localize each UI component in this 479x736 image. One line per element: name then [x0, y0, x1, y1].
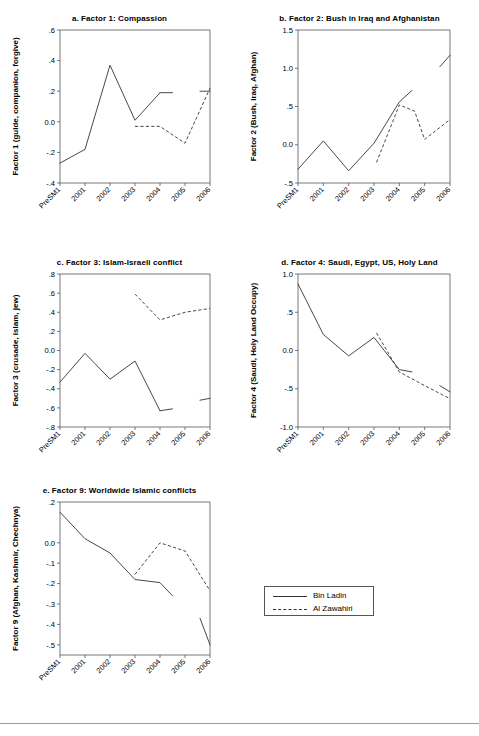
- panel-d-plot: -1.0-.50.0.51.0PreSM12001200220032004200…: [240, 268, 479, 488]
- panel-factor-2: b. Factor 2: Bush in Iraq and Afghanista…: [240, 14, 479, 244]
- y-tick-label: .8: [49, 270, 55, 279]
- plot-frame: [298, 30, 450, 183]
- panel-c-title: c. Factor 3: Islam-Israeli conflict: [0, 258, 239, 267]
- y-tick-label: .6: [49, 289, 55, 298]
- y-tick-label: 0.0: [282, 346, 293, 355]
- x-tick-label: 2001: [308, 185, 326, 203]
- x-tick-label: 2004: [384, 185, 402, 203]
- y-tick-label: 0.0: [44, 539, 55, 548]
- series-al-zawahiri: [377, 105, 450, 162]
- panel-factor-1: a. Factor 1: Compassion -.4-.20.0.2.4.6P…: [0, 14, 239, 244]
- plot-frame: [298, 274, 450, 427]
- y-tick-label: -.2: [46, 365, 55, 374]
- y-tick-label: 0.0: [44, 118, 55, 127]
- x-tick-label: PreSM1: [275, 185, 300, 210]
- series-bin-ladin: [60, 512, 173, 596]
- x-tick-label: 2005: [409, 185, 427, 203]
- series-al-zawahiri: [377, 333, 450, 399]
- legend-key-dashed-line-icon: [273, 604, 307, 614]
- chart-svg-a: -.4-.20.0.2.4.6PreSM12001200220032004200…: [0, 24, 239, 244]
- y-tick-label: -.1: [46, 559, 55, 568]
- series-bin-ladin: [200, 398, 210, 400]
- y-axis-title: Factor 1 (guide, companion, forgive): [11, 37, 20, 176]
- y-tick-label: -.5: [284, 384, 293, 393]
- x-tick-label: PreSM1: [37, 429, 62, 454]
- x-tick-label: 2004: [384, 429, 402, 447]
- y-tick-label: .5: [287, 308, 293, 317]
- y-axis-title: Factor 2 (Bush, Iraq, Afghan): [249, 51, 258, 161]
- series-bin-ladin: [200, 618, 210, 645]
- plot-frame: [60, 274, 210, 427]
- y-tick-label: .2: [49, 87, 55, 96]
- y-axis-title: Factor 3 (crusade, islam, jew): [11, 294, 20, 406]
- y-tick-label: -.6: [46, 404, 55, 413]
- series-bin-ladin: [60, 353, 160, 410]
- legend-key-solid-line-icon: [273, 591, 307, 601]
- y-axis-title: Factor 9 (Afghan, Kashmir, Chechnya): [11, 506, 20, 651]
- x-tick-label: 2002: [94, 429, 112, 447]
- legend: Bin Ladin Al Zawahiri: [264, 586, 374, 616]
- x-tick-label: 2006: [194, 185, 212, 203]
- y-tick-label: 0.0: [282, 140, 293, 149]
- x-tick-label: 2006: [434, 429, 452, 447]
- panel-a-title: a. Factor 1: Compassion: [0, 14, 239, 23]
- x-tick-label: 2005: [169, 429, 187, 447]
- x-tick-label: 2001: [69, 185, 87, 203]
- chart-svg-d: -1.0-.50.0.51.0PreSM12001200220032004200…: [240, 268, 479, 488]
- x-tick-label: 2006: [434, 185, 452, 203]
- y-tick-label: -.5: [46, 641, 55, 650]
- series-al-zawahiri: [135, 294, 210, 320]
- x-tick-label: 2005: [409, 429, 427, 447]
- x-tick-label: 2001: [69, 657, 87, 675]
- x-tick-label: 2001: [69, 429, 87, 447]
- x-tick-label: 2003: [358, 185, 376, 203]
- series-bin-ladin: [440, 386, 450, 392]
- chart-svg-b: -.50.0.51.01.5PreSM120012002200320042005…: [240, 24, 479, 244]
- x-tick-label: 2002: [333, 185, 351, 203]
- series-bin-ladin: [298, 90, 412, 170]
- y-tick-label: 1.5: [282, 26, 293, 35]
- series-bin-ladin: [60, 65, 160, 163]
- plot-frame: [60, 30, 210, 183]
- x-tick-label: 2004: [144, 185, 162, 203]
- legend-label-bin-ladin: Bin Ladin: [313, 591, 346, 600]
- y-tick-label: .6: [49, 26, 55, 35]
- x-tick-label: PreSM1: [37, 185, 62, 210]
- series-bin-ladin: [160, 409, 173, 411]
- y-tick-label: .2: [49, 498, 55, 507]
- x-tick-label: 2006: [194, 657, 212, 675]
- x-tick-label: 2005: [169, 657, 187, 675]
- plot-frame: [60, 502, 210, 655]
- panel-b-title: b. Factor 2: Bush in Iraq and Afghanista…: [240, 14, 479, 23]
- chart-svg-c: -.8-.6-.4-.20.0.2.4.6.8PreSM120012002200…: [0, 268, 239, 488]
- x-tick-label: PreSM1: [37, 657, 62, 682]
- x-tick-label: 2003: [119, 429, 137, 447]
- y-tick-label: -.2: [46, 148, 55, 157]
- y-tick-label: -.2: [46, 579, 55, 588]
- y-tick-label: 1.0: [282, 64, 293, 73]
- panel-c-plot: -.8-.6-.4-.20.0.2.4.6.8PreSM120012002200…: [0, 268, 239, 488]
- chart-svg-e: .20.0-.1-.2-.3-.4-.5PreSM120012002200320…: [0, 496, 239, 716]
- panel-d-title: d. Factor 4: Saudi, Egypt, US, Holy Land: [240, 258, 479, 267]
- panel-b-plot: -.50.0.51.01.5PreSM120012002200320042005…: [240, 24, 479, 244]
- panel-factor-3: c. Factor 3: Islam-Israeli conflict -.8-…: [0, 258, 239, 488]
- legend-label-al-zawahiri: Al Zawahiri: [313, 604, 353, 613]
- panel-a-plot: -.4-.20.0.2.4.6PreSM12001200220032004200…: [0, 24, 239, 244]
- x-tick-label: 2005: [169, 185, 187, 203]
- y-tick-label: -.3: [46, 600, 55, 609]
- panel-factor-4: d. Factor 4: Saudi, Egypt, US, Holy Land…: [240, 258, 479, 488]
- panel-factor-9: e. Factor 9: Worldwide Islamic conflicts…: [0, 486, 239, 716]
- y-tick-label: -.4: [46, 384, 55, 393]
- legend-row-bin-ladin: Bin Ladin: [265, 589, 373, 602]
- y-tick-label: -1.0: [280, 423, 293, 432]
- footer-caption: [28, 729, 448, 736]
- panel-e-title: e. Factor 9: Worldwide Islamic conflicts: [0, 486, 239, 495]
- y-axis-title: Factor 4 (Saudi, Holy Land Occupy): [249, 283, 258, 418]
- x-tick-label: 2003: [119, 657, 137, 675]
- x-tick-label: 2003: [119, 185, 137, 203]
- x-tick-label: 2004: [144, 657, 162, 675]
- y-tick-label: -.4: [46, 620, 55, 629]
- x-tick-label: 2002: [333, 429, 351, 447]
- y-tick-label: .4: [49, 308, 55, 317]
- series-al-zawahiri: [135, 88, 210, 143]
